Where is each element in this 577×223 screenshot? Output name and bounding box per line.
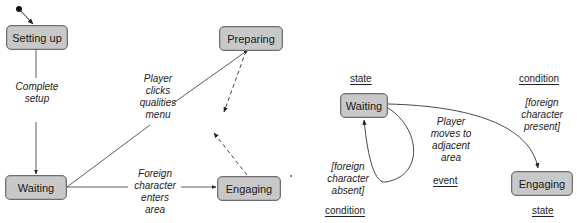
annotation-condition-top: condition <box>519 73 559 84</box>
state-waiting-right[interactable]: Waiting <box>340 93 388 118</box>
state-engaging-right[interactable]: Engaging <box>511 171 573 196</box>
state-preparing-label: Preparing <box>227 33 275 45</box>
state-setting-up[interactable]: Setting up <box>6 25 68 50</box>
annotation-state-top: state <box>350 73 372 84</box>
state-engaging-right-label: Engaging <box>519 178 566 190</box>
state-setting-up-label: Setting up <box>12 32 62 44</box>
initial-transition-arrow <box>20 10 33 24</box>
condition-foreign-character-absent: [foreign character absent] <box>322 161 374 197</box>
edges-layer <box>0 0 577 223</box>
state-preparing[interactable]: Preparing <box>219 26 283 51</box>
stray-dot <box>290 175 292 177</box>
event-player-moves-to-adjacent-area: Player moves to adjacent area <box>422 116 480 164</box>
state-waiting[interactable]: Waiting <box>5 175 67 200</box>
annotation-event: event <box>433 175 457 186</box>
transition-label-player-clicks-qualities-menu: Player clicks qualities menu <box>128 73 188 121</box>
dashed-preparing-down <box>224 51 246 112</box>
state-diagram-canvas: Setting up Waiting Preparing Engaging Co… <box>0 0 577 223</box>
state-engaging[interactable]: Engaging <box>217 176 281 201</box>
annotation-state-bottom: state <box>532 205 554 216</box>
state-waiting-right-label: Waiting <box>346 100 382 112</box>
transition-label-complete-setup: Complete setup <box>10 81 64 105</box>
dashed-engaging-up <box>214 133 247 175</box>
transition-label-foreign-character-enters-area: Foreign character enters area <box>124 168 186 216</box>
condition-foreign-character-present: [foreign character present] <box>514 97 570 133</box>
state-engaging-label: Engaging <box>226 183 273 195</box>
state-waiting-label: Waiting <box>18 182 54 194</box>
annotation-condition-bottom: condition <box>325 205 365 216</box>
